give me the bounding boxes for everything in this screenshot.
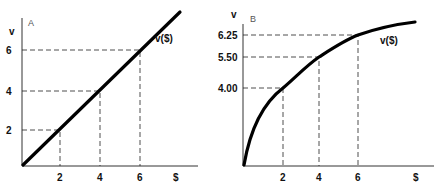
chart-a-ytick: 2	[6, 125, 12, 136]
chart-b-curve-label: v($)	[380, 35, 398, 46]
chart-a-ytick: 6	[6, 45, 12, 56]
chart-a: v A v($) 6 4 2 2 4 6 $	[6, 12, 198, 183]
chart-b-guide-4	[243, 57, 319, 166]
chart-b-xtick: 2	[280, 172, 286, 183]
chart-b-guide-2	[243, 88, 283, 166]
chart-b-ytick: 6.25	[218, 30, 238, 41]
chart-b-ytick: 5.50	[218, 52, 238, 63]
chart-a-ytick: 4	[6, 86, 12, 97]
chart-b-ylabel: v	[231, 9, 237, 20]
figure: v A v($) 6 4 2 2 4 6 $ v B v($) 6.25 5.5…	[0, 0, 442, 189]
chart-a-curve-label: v($)	[155, 33, 173, 44]
chart-a-xtick: 4	[97, 172, 103, 183]
chart-b: v B v($) 6.25 5.50 4.00 2 4 6 $	[218, 9, 434, 183]
chart-b-panel-label: B	[250, 14, 256, 24]
chart-b-xlabel: $	[413, 172, 419, 183]
chart-a-panel-label: A	[28, 18, 34, 28]
chart-b-guide-6	[243, 35, 358, 166]
chart-b-xtick: 6	[355, 172, 361, 183]
chart-a-xlabel: $	[173, 172, 179, 183]
chart-b-xtick: 4	[316, 172, 322, 183]
chart-a-ylabel: v	[9, 26, 15, 37]
chart-a-xtick: 2	[57, 172, 63, 183]
chart-a-xtick: 6	[137, 172, 143, 183]
chart-b-ytick: 4.00	[218, 83, 238, 94]
